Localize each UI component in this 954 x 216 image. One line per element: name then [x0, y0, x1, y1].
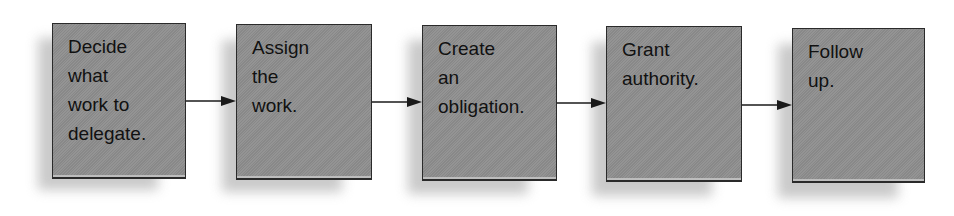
arrow-1-to-2 — [186, 96, 236, 106]
arrow-3-to-4 — [557, 98, 606, 108]
delegation-process-diagram: Decide what work to delegate. Assign the… — [0, 0, 954, 216]
arrow-4-to-5 — [742, 100, 792, 110]
connector-arrows — [0, 0, 954, 216]
arrow-2-to-3 — [372, 97, 422, 107]
